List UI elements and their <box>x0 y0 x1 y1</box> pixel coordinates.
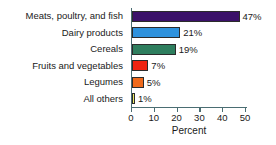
bar-value-label: 5% <box>147 77 161 88</box>
bar-value-label: 21% <box>183 27 202 38</box>
category-label-all-others: All others <box>0 91 127 108</box>
bar-meats-poultry-fish <box>132 11 239 22</box>
category-label-meats-poultry-fish: Meats, poultry, and fish <box>0 8 127 25</box>
bar-cereals <box>132 44 175 55</box>
category-label-fruits-and-vegetables: Fruits and vegetables <box>0 58 127 75</box>
bar-series: 47% 21% 19% 7% 5% 1% <box>132 8 276 107</box>
plot-area: 47% 21% 19% 7% 5% 1% <box>131 8 276 107</box>
value-axis-tick-labels: 01020304050 <box>131 112 247 125</box>
bar-dairy-products <box>132 27 180 38</box>
category-axis-labels: Meats, poultry, and fish Dairy products … <box>0 8 127 107</box>
bar-value-label: 19% <box>179 44 198 55</box>
bar-row: 47% <box>132 8 276 25</box>
category-label-cereals: Cereals <box>0 41 127 58</box>
x-axis-title: Percent <box>131 125 247 136</box>
bar-legumes <box>132 77 143 88</box>
bar-all-others <box>132 93 135 104</box>
bar-value-label: 7% <box>151 60 165 71</box>
bar-row: 21% <box>132 25 276 42</box>
bar-row: 19% <box>132 41 276 58</box>
category-label-dairy-products: Dairy products <box>0 25 127 42</box>
axis-tick-label: 50 <box>240 112 251 123</box>
bar-value-label: 1% <box>138 93 152 104</box>
protein-sources-bar-chart: Meats, poultry, and fish Dairy products … <box>0 0 276 145</box>
bar-row: 7% <box>132 58 276 75</box>
bar-row: 1% <box>132 91 276 108</box>
category-label-legumes: Legumes <box>0 74 127 91</box>
bar-row: 5% <box>132 74 276 91</box>
axis-tick-label: 0 <box>128 112 133 123</box>
axis-tick-label: 30 <box>194 112 205 123</box>
bar-fruits-and-vegetables <box>132 60 148 71</box>
axis-tick-label: 20 <box>171 112 182 123</box>
bar-value-label: 47% <box>243 11 262 22</box>
axis-tick-label: 40 <box>217 112 228 123</box>
axis-tick-label: 10 <box>149 112 160 123</box>
